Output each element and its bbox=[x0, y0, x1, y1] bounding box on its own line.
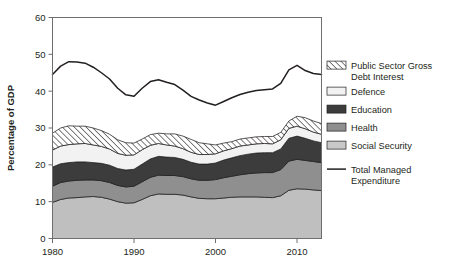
legend-item[interactable]: Total ManagedExpenditure bbox=[327, 165, 411, 187]
y-tick-label: 20 bbox=[35, 159, 46, 170]
y-tick-label: 50 bbox=[35, 49, 46, 60]
y-axis: 0102030405060 bbox=[35, 12, 53, 244]
legend-swatch-social bbox=[327, 141, 346, 149]
x-axis: 1980199020002010 bbox=[42, 239, 308, 257]
legend-swatch-education bbox=[327, 105, 346, 113]
line-total-managed-expenditure bbox=[53, 62, 322, 105]
y-tick-label: 10 bbox=[35, 196, 46, 207]
y-tick-label: 30 bbox=[35, 122, 46, 133]
legend-label: Public Sector Gross bbox=[351, 61, 433, 71]
legend-swatch-defence bbox=[327, 87, 346, 95]
legend-item[interactable]: Education bbox=[327, 105, 392, 115]
x-tick-label: 1980 bbox=[42, 246, 63, 257]
legend-swatch-hatch bbox=[327, 61, 346, 69]
legend-label: Social Security bbox=[351, 141, 412, 151]
y-tick-label: 60 bbox=[35, 12, 46, 23]
legend-label: Education bbox=[351, 105, 392, 115]
y-axis-title: Percentage of GDP bbox=[5, 84, 16, 171]
legend-label: Defence bbox=[351, 87, 385, 97]
legend-label-line2: Expenditure bbox=[351, 176, 400, 186]
legend-item[interactable]: Defence bbox=[327, 87, 385, 97]
legend-item[interactable]: Health bbox=[327, 123, 378, 133]
legend-label: Health bbox=[351, 123, 378, 133]
stacked-areas bbox=[53, 116, 322, 238]
x-tick-label: 1990 bbox=[123, 246, 144, 257]
chart-figure: 01020304050601980199020002010Percentage … bbox=[0, 0, 455, 273]
legend-item[interactable]: Public Sector GrossDebt Interest bbox=[327, 61, 433, 83]
y-tick-label: 0 bbox=[40, 233, 45, 244]
legend-item[interactable]: Social Security bbox=[327, 141, 412, 151]
legend-swatch-health bbox=[327, 123, 346, 131]
legend: Public Sector GrossDebt InterestDefenceE… bbox=[327, 61, 433, 187]
x-tick-label: 2000 bbox=[205, 246, 226, 257]
legend-label-line2: Debt Interest bbox=[351, 72, 404, 82]
x-tick-label: 2010 bbox=[286, 246, 307, 257]
legend-label: Total Managed bbox=[351, 165, 411, 175]
y-tick-label: 40 bbox=[35, 86, 46, 97]
